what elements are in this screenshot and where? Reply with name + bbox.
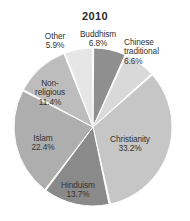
slice-label-other: Other 5.9%: [36, 32, 74, 51]
slice-label-hinduism: Hinduism 13.7%: [52, 181, 104, 200]
slice-label-non-religious: Non- religious 11.4%: [28, 79, 72, 107]
slice-label-chinese-traditional: Chinese traditional 6.6%: [124, 38, 174, 66]
slice-label-christianity: Christianity 33.2%: [100, 135, 160, 154]
slice-label-islam: Islam 22.4%: [22, 134, 64, 153]
slice-label-buddhism: Buddhism 6.8%: [74, 30, 122, 49]
pie-chart: 2010 Other 5.9% Buddhism 6.8% Chinese tr…: [0, 0, 190, 221]
